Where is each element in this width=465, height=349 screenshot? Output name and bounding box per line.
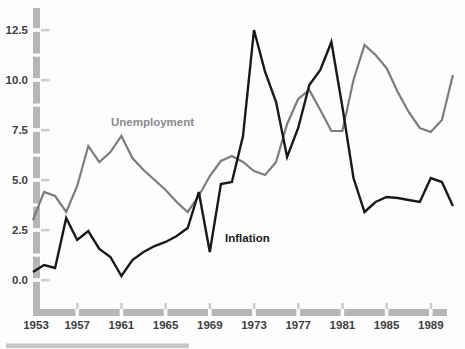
y-axis-dash-gap (32, 104, 41, 107)
x-tick-label: 1953 (23, 319, 49, 331)
x-tick (385, 303, 388, 309)
y-tick (41, 79, 50, 82)
x-tick (76, 303, 79, 309)
y-axis-dash-gap (32, 54, 41, 57)
x-tick (209, 303, 212, 309)
y-tick-label: 2.5 (12, 224, 29, 236)
y-axis-dash-gap (32, 154, 41, 157)
y-tick (41, 229, 50, 232)
y-tick-label: 10.0 (6, 74, 28, 86)
x-axis-dash-gap (429, 308, 433, 317)
x-tick-label: 1981 (330, 319, 356, 331)
x-tick (297, 303, 300, 309)
y-axis-dash-gap (32, 254, 41, 257)
x-tick-label: 1985 (374, 319, 400, 331)
page-rule (6, 344, 189, 349)
unemployment-label: Unemployment (111, 116, 194, 128)
y-tick-label: 12.5 (6, 24, 29, 36)
y-tick-label: 5.0 (12, 174, 28, 186)
inflation-label: Inflation (225, 232, 270, 244)
y-axis-dash-gap (32, 78, 41, 82)
x-axis-dash-gap (341, 308, 345, 317)
x-tick (341, 303, 344, 309)
x-tick-label: 1977 (285, 319, 311, 331)
x-tick-label: 1989 (418, 319, 444, 331)
x-tick (164, 303, 167, 309)
x-tick (120, 303, 123, 309)
y-axis-dash-gap (32, 28, 41, 32)
x-axis-dash-gap (252, 308, 256, 317)
x-tick-label: 1965 (153, 319, 179, 331)
x-tick-label: 1969 (197, 319, 223, 331)
y-tick (41, 279, 50, 282)
y-tick-label: 7.5 (12, 124, 29, 136)
x-tick (430, 303, 433, 309)
x-axis-dash-gap (208, 308, 212, 317)
x-tick-label: 1957 (64, 319, 90, 331)
x-tick-label: 1973 (241, 319, 267, 331)
x-axis-dash-gap (296, 308, 300, 317)
y-tick-label: 0.0 (12, 274, 28, 286)
y-axis-dash-gap (32, 228, 41, 232)
x-tick-label: 1961 (109, 319, 135, 331)
textbook-figure-page: 0.02.55.07.510.012.519531957196119651969… (0, 0, 465, 349)
y-axis-dash-gap (32, 278, 41, 282)
x-axis-dash-gap (120, 308, 124, 317)
y-tick (41, 179, 50, 182)
x-axis-dash-gap (75, 308, 79, 317)
x-axis-dash-gap (164, 308, 168, 317)
x-tick (253, 303, 256, 309)
y-axis-dash-gap (32, 178, 41, 182)
unemployment-inflation-chart: 0.02.55.07.510.012.519531957196119651969… (0, 0, 465, 349)
y-tick (41, 129, 50, 132)
y-tick (41, 29, 50, 32)
y-axis-dash-gap (32, 128, 41, 132)
x-axis-dash-gap (385, 308, 389, 317)
